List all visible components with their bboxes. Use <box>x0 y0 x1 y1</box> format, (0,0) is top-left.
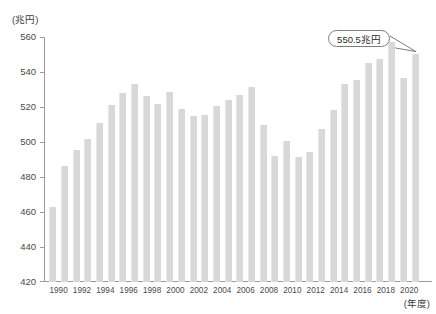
y-axis-tick-label: 440 <box>10 241 36 252</box>
x-axis-tick-label: 2018 <box>377 286 395 295</box>
x-axis-tick-label: 2020 <box>400 286 418 295</box>
bar <box>201 115 208 282</box>
bar <box>154 104 161 283</box>
bar <box>318 129 325 282</box>
bar <box>96 123 103 282</box>
y-axis-tick-label: 460 <box>10 206 36 217</box>
bar <box>353 80 360 282</box>
x-axis-unit-label: (年度) <box>404 296 430 310</box>
y-axis-tick-label: 520 <box>10 101 36 112</box>
bar <box>236 95 243 282</box>
bar <box>295 157 302 282</box>
bar <box>225 100 232 282</box>
bar <box>271 156 278 282</box>
x-axis-tick-label: 2010 <box>283 286 301 295</box>
latest-value-callout: 550.5兆円 <box>328 30 390 47</box>
bar <box>248 87 255 282</box>
bar <box>178 109 185 282</box>
x-axis-tick-label: 2016 <box>353 286 371 295</box>
bar <box>131 84 138 282</box>
bar <box>49 207 56 282</box>
bar <box>365 63 372 282</box>
x-axis-tick-label: 2012 <box>307 286 325 295</box>
bar <box>213 106 220 282</box>
bar <box>341 84 348 282</box>
bar <box>73 150 80 282</box>
x-axis-tick-label: 2008 <box>260 286 278 295</box>
x-axis-tick-label: 2002 <box>190 286 208 295</box>
x-axis-tick-label: 2006 <box>236 286 254 295</box>
bar <box>376 59 383 282</box>
nominal-gdp-bar-chart: (兆円) 420440460480500520540560 1990199219… <box>0 0 436 314</box>
bar <box>119 93 126 282</box>
bar <box>388 42 395 282</box>
bar <box>190 116 197 282</box>
bar <box>108 105 115 282</box>
bar <box>400 78 407 282</box>
bar <box>61 166 68 282</box>
y-axis-tick-label: 560 <box>10 31 36 42</box>
x-axis-tick-label: 1996 <box>120 286 138 295</box>
x-axis-tick-label: 2000 <box>166 286 184 295</box>
bar <box>260 125 267 282</box>
plot-area <box>44 37 432 282</box>
x-axis-tick-label: 1990 <box>49 286 67 295</box>
bar <box>166 92 173 282</box>
bar <box>330 110 337 282</box>
y-axis-tick-label: 480 <box>10 171 36 182</box>
x-axis-tick-label: 1998 <box>143 286 161 295</box>
bar <box>143 96 150 282</box>
y-axis-tick-label: 420 <box>10 276 36 287</box>
x-axis-tick-label: 1992 <box>73 286 91 295</box>
y-axis-tick-label: 540 <box>10 66 36 77</box>
x-axis-tick-label: 2014 <box>330 286 348 295</box>
bar <box>283 141 290 282</box>
x-axis-tick-label: 1994 <box>96 286 114 295</box>
y-axis-tick-label: 500 <box>10 136 36 147</box>
x-axis-tick-label: 2004 <box>213 286 231 295</box>
bar <box>306 152 313 282</box>
bar <box>84 139 91 282</box>
bar <box>412 54 419 282</box>
